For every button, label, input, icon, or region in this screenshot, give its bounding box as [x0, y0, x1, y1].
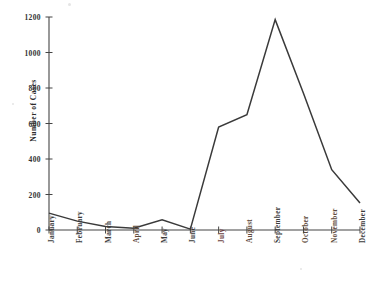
x-tick-label-september: September — [274, 207, 282, 243]
chart-axes — [46, 17, 361, 234]
chart-container: 020040060080010001200 Number of Cases Ja… — [0, 0, 376, 289]
y-tick-label: 200 — [7, 190, 41, 199]
x-tick-label-february: February — [76, 211, 84, 243]
x-tick-label-november: November — [331, 208, 339, 243]
y-tick-label: 400 — [7, 155, 41, 164]
y-tick-label: 1000 — [7, 48, 41, 57]
x-tick-label-april: April — [133, 225, 141, 243]
y-tick-label: 1200 — [7, 13, 41, 22]
x-tick-label-august: August — [246, 219, 254, 243]
x-tick-label-january: January — [48, 215, 56, 243]
x-tick-label-june: June — [189, 227, 197, 243]
x-tick-label-october: October — [302, 215, 310, 243]
x-tick-label-december: December — [359, 209, 367, 243]
line-chart-plot — [0, 0, 376, 289]
y-axis-title: Number of Cases — [29, 80, 38, 142]
x-tick-label-may: May — [161, 228, 169, 243]
x-tick-label-july: July — [218, 228, 226, 243]
y-tick-label: 0 — [7, 226, 41, 235]
chart-series-line — [49, 20, 360, 229]
x-tick-label-march: March — [105, 221, 113, 243]
